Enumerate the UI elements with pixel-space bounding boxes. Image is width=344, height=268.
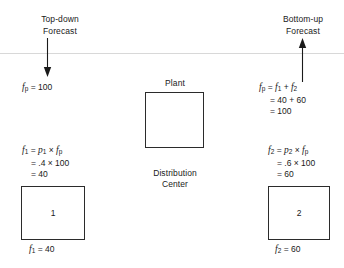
right-dc-formula-line1: f2 = p2 × fp — [268, 145, 315, 158]
top-down-arrow-icon — [41, 38, 54, 78]
diagram-canvas: Top-down Forecast fp = 100 Bottom-up For… — [0, 0, 344, 268]
right-dc-formula: f2 = p2 × fp = .6 × 100 = 60 — [268, 145, 315, 181]
left-f1-equals: = — [31, 145, 36, 155]
dc-node-1-box: 1 — [21, 186, 85, 240]
distribution-center-line1: Distribution — [153, 168, 197, 179]
right-fp-subscript: p — [262, 85, 266, 92]
dc-node-2-value: f2 = 60 — [275, 244, 300, 257]
left-fp-rhs: = 100 — [31, 82, 53, 92]
dc-node-2-f-rhs: = 60 — [284, 244, 301, 254]
dc-node-1-value: f1 = 40 — [29, 244, 54, 257]
right-f1-subscript: 1 — [278, 85, 282, 92]
left-fp-term-subscript: p — [59, 148, 63, 155]
left-times-operator: × — [49, 145, 54, 155]
top-down-header-line1: Top-down — [41, 14, 79, 26]
left-plant-forecast-value: fp = 100 — [22, 82, 52, 95]
dc-node-2-label: 2 — [297, 208, 302, 218]
right-f2-equals: = — [277, 145, 282, 155]
bottom-up-header-line2: Forecast — [283, 26, 323, 38]
left-dc-formula-line2: = .4 × 100 — [22, 158, 69, 170]
bottom-up-forecast-header: Bottom-up Forecast — [283, 14, 323, 37]
right-fp-equals: = — [268, 82, 273, 92]
distribution-center-line2: Center — [153, 179, 197, 190]
left-dc-formula-line1: f1 = p1 × fp — [22, 145, 69, 158]
dc-node-2-f-subscript: 2 — [278, 247, 282, 254]
left-f1-subscript: 1 — [25, 148, 29, 155]
dc-node-2-box: 2 — [268, 186, 330, 240]
right-plus-operator: + — [284, 82, 289, 92]
right-f2-lhs-subscript: 2 — [271, 148, 275, 155]
left-dc-formula-line3: = 40 — [22, 169, 69, 181]
right-plant-formula-line3: = 100 — [259, 106, 306, 118]
right-plant-formula-line2: = 40 + 60 — [259, 95, 306, 107]
right-p2-subscript: 2 — [289, 148, 293, 155]
left-fp-subscript: p — [25, 85, 29, 92]
dc-node-1-f-rhs: = 40 — [38, 244, 55, 254]
top-down-header-line2: Forecast — [41, 26, 79, 38]
left-p1-subscript: 1 — [43, 148, 47, 155]
plant-label: Plant — [165, 78, 185, 89]
dc-node-1-f-subscript: 1 — [32, 247, 36, 254]
right-dc-formula-line2: = .6 × 100 — [268, 158, 315, 170]
top-down-forecast-header: Top-down Forecast — [41, 14, 79, 37]
dc-node-1-label: 1 — [51, 208, 56, 218]
bottom-up-arrow-icon — [296, 38, 309, 82]
distribution-center-label: Distribution Center — [153, 168, 197, 190]
right-dc-formula-line3: = 60 — [268, 169, 315, 181]
right-times-operator: × — [295, 145, 300, 155]
bottom-up-header-line1: Bottom-up — [283, 14, 323, 26]
right-plant-formula-line1: fp = f1 + f2 — [259, 82, 306, 95]
left-dc-formula: f1 = p1 × fp = .4 × 100 = 40 — [22, 145, 69, 181]
plant-node-box — [145, 92, 204, 148]
right-plant-forecast-formula: fp = f1 + f2 = 40 + 60 = 100 — [259, 82, 306, 118]
right-fp-term-subscript: p — [305, 148, 309, 155]
right-f2-subscript: 2 — [294, 85, 298, 92]
